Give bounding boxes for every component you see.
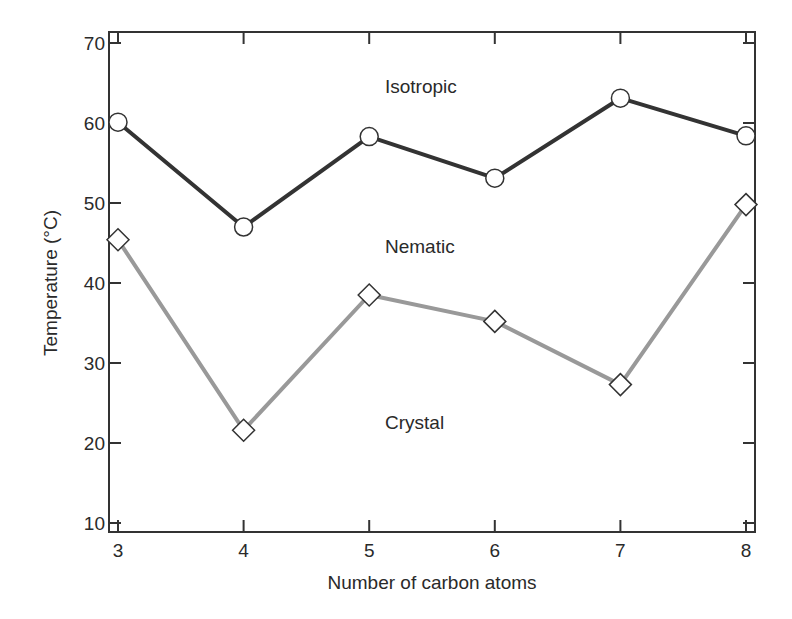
diamond-marker (484, 310, 506, 332)
isotropic-label: Isotropic (385, 76, 457, 97)
tick-labels: 34567810203040506070 (84, 33, 751, 561)
diamond-marker (107, 229, 129, 251)
y-tick-label: 10 (84, 513, 105, 534)
phase-transition-chart: 34567810203040506070 Isotropic Nematic C… (0, 0, 792, 619)
plot-frame (109, 32, 755, 532)
y-tick-label: 70 (84, 33, 105, 54)
circle-marker (611, 89, 629, 107)
x-tick-label: 4 (238, 540, 249, 561)
y-tick-label: 20 (84, 433, 105, 454)
y-tick-label: 40 (84, 273, 105, 294)
x-axis-title: Number of carbon atoms (327, 572, 536, 593)
x-tick-label: 8 (741, 540, 752, 561)
circle-marker (737, 127, 755, 145)
y-tick-label: 50 (84, 193, 105, 214)
nematic-label: Nematic (385, 236, 455, 257)
circle-marker (109, 113, 127, 131)
axis-ticks (109, 32, 755, 532)
circle-marker (235, 218, 253, 236)
crystal-label: Crystal (385, 412, 444, 433)
y-tick-label: 30 (84, 353, 105, 374)
x-tick-label: 5 (364, 540, 375, 561)
y-tick-label: 60 (84, 113, 105, 134)
data-series (107, 89, 757, 441)
x-tick-label: 6 (490, 540, 501, 561)
y-axis-title: Temperature (°C) (40, 210, 61, 356)
x-tick-label: 3 (113, 540, 124, 561)
circle-marker (486, 169, 504, 187)
x-tick-label: 7 (615, 540, 626, 561)
circle-marker (360, 128, 378, 146)
isotropic-line (118, 98, 746, 227)
plot-border (109, 32, 755, 532)
